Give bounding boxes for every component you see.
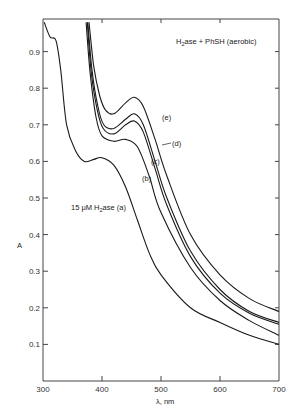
curve-label-b: (b) <box>142 174 152 183</box>
y-tick-label: 0.6 <box>29 157 41 166</box>
curve-label-c: (c) <box>151 157 160 166</box>
x-tick-label: 500 <box>154 385 168 394</box>
y-axis-label: A <box>17 241 22 250</box>
y-tick-label: 0.2 <box>29 304 41 313</box>
absorbance-spectrum-chart: 0.10.20.30.40.50.60.70.80.9 300400500600… <box>0 0 301 419</box>
curve-c <box>87 22 279 324</box>
y-tick-label: 0.3 <box>29 267 41 276</box>
concentration-label: 15 μM H2ase (a) <box>71 203 126 213</box>
plot-frame <box>43 19 279 381</box>
y-tick-label: 0.4 <box>29 231 41 240</box>
y-tick-label: 0.7 <box>29 121 41 130</box>
spectrum-curves <box>44 22 279 344</box>
y-tick-label: 0.5 <box>29 194 41 203</box>
y-ticks: 0.10.20.30.40.50.60.70.80.9 <box>29 48 279 350</box>
x-tick-label: 700 <box>272 385 286 394</box>
curve-e <box>89 22 279 311</box>
y-tick-label: 0.9 <box>29 48 41 57</box>
x-axis-label: λ, nm <box>156 397 174 406</box>
curve-label-e: (e) <box>162 113 172 122</box>
curve-label-d: (d) <box>172 139 182 148</box>
chart-title: H2ase + PhSH (aerobic) <box>176 37 257 47</box>
curve-label-d-leader <box>162 143 171 145</box>
x-tick-label: 400 <box>95 385 109 394</box>
x-tick-label: 300 <box>36 385 50 394</box>
x-tick-label: 600 <box>213 385 227 394</box>
y-tick-label: 0.1 <box>29 340 41 349</box>
curve-b <box>86 22 279 335</box>
curve-d <box>88 22 279 322</box>
y-tick-label: 0.8 <box>29 84 41 93</box>
